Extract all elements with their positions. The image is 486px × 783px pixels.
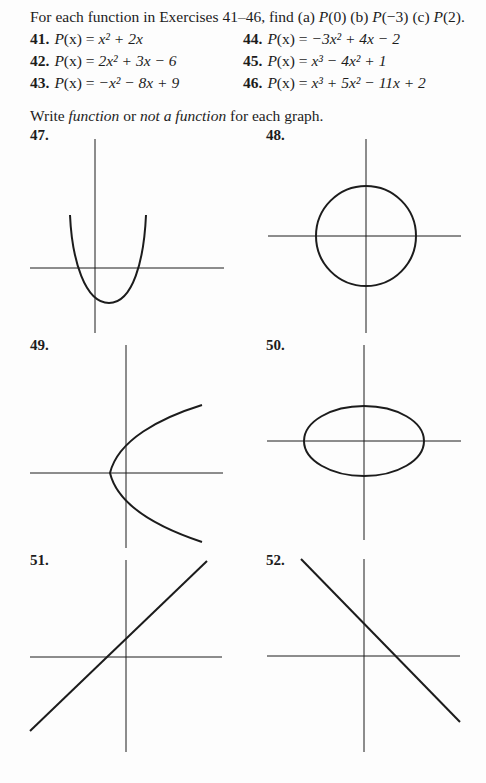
decreasing-line	[301, 559, 460, 722]
increasing-line	[30, 561, 207, 731]
graph-52	[267, 559, 460, 752]
graph-50	[267, 345, 461, 540]
graphs-canvas	[0, 0, 486, 783]
graph-51	[30, 560, 222, 752]
graph-49	[30, 345, 223, 548]
graph-47	[30, 139, 224, 333]
graph-48	[268, 139, 461, 333]
parabola-curve	[70, 215, 146, 303]
